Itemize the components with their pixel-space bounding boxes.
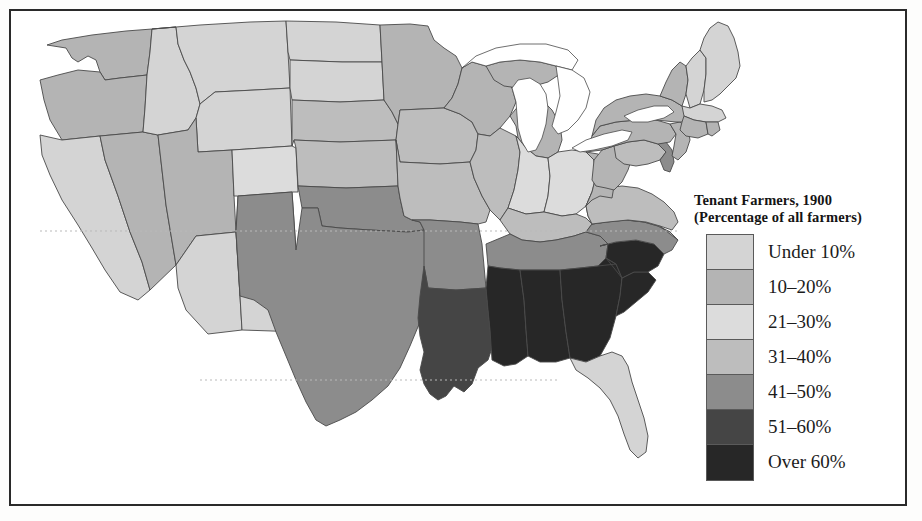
legend-title-line1: Tenant Farmers, 1900 — [694, 192, 832, 208]
legend-swatch-over-60 — [707, 445, 753, 480]
state-ri[interactable] — [706, 122, 720, 136]
legend-label-under-10: Under 10% — [768, 234, 912, 269]
map-legend: Tenant Farmers, 1900 (Percentage of all … — [694, 192, 912, 481]
state-ks[interactable] — [294, 140, 398, 188]
state-nd[interactable] — [286, 21, 382, 62]
legend-swatch-41-50 — [707, 375, 753, 410]
legend-swatch-column — [706, 234, 754, 481]
legend-title: Tenant Farmers, 1900 (Percentage of all … — [694, 192, 912, 225]
legend-label-31-40: 31–40% — [768, 339, 912, 374]
legend-swatch-10-20 — [707, 270, 753, 305]
legend-swatch-under-10 — [707, 235, 753, 270]
legend-swatch-31-40 — [707, 340, 753, 375]
state-co[interactable] — [232, 146, 298, 196]
lake-huron — [552, 66, 590, 134]
legend-swatch-21-30 — [707, 305, 753, 340]
legend-label-column: Under 10% 10–20% 21–30% 31–40% 41–50% 51… — [768, 234, 912, 479]
state-or[interactable] — [40, 70, 147, 140]
legend-swatch-51-60 — [707, 410, 753, 445]
state-nh[interactable] — [686, 50, 706, 108]
state-sd[interactable] — [290, 60, 384, 102]
state-wy[interactable] — [196, 88, 292, 152]
legend-body: Under 10% 10–20% 21–30% 31–40% 41–50% 51… — [694, 234, 912, 481]
legend-label-21-30: 21–30% — [768, 304, 912, 339]
legend-label-10-20: 10–20% — [768, 269, 912, 304]
legend-label-41-50: 41–50% — [768, 374, 912, 409]
map-page: Tenant Farmers, 1900 (Percentage of all … — [0, 0, 922, 521]
legend-title-line2: (Percentage of all farmers) — [694, 209, 912, 226]
state-ga[interactable] — [560, 258, 622, 362]
state-fl[interactable] — [570, 352, 648, 458]
state-ne[interactable] — [292, 100, 398, 146]
legend-label-over-60: Over 60% — [768, 444, 912, 479]
legend-label-51-60: 51–60% — [768, 409, 912, 444]
state-me[interactable] — [700, 22, 740, 102]
states-layer — [40, 21, 740, 458]
